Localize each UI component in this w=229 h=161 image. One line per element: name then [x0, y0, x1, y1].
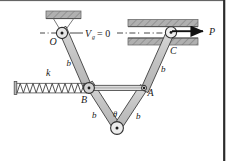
figure-canvas: O A B C P k θ V g = 0 b b b b — [0, 0, 229, 161]
label-joint-A: A — [147, 87, 155, 98]
roller-C — [165, 27, 176, 38]
label-datum-equals-zero: = 0 — [97, 28, 110, 39]
label-force-P: P — [208, 26, 215, 37]
joint-B — [84, 83, 95, 94]
label-angle-theta: θ — [113, 109, 117, 119]
label-roller-C: C — [170, 45, 177, 56]
pivot-bottom — [111, 122, 124, 135]
pivot-O — [56, 27, 67, 38]
joint-A — [141, 85, 146, 90]
mechanism-diagram: O A B C P k θ V g = 0 b b b b — [0, 0, 229, 161]
label-datum-Vg: V g = 0 — [85, 28, 110, 41]
label-pivot-O: O — [50, 36, 57, 47]
label-length-b-OB: b — [67, 58, 72, 68]
label-spring-k: k — [46, 67, 51, 78]
label-length-b-bottom-A: b — [136, 111, 141, 121]
label-length-b-B-bottom: b — [92, 110, 97, 120]
support-block-top — [46, 11, 81, 19]
label-length-b-AC: b — [161, 64, 166, 74]
label-datum-subscript: g — [92, 34, 95, 40]
spring-k — [14, 82, 89, 95]
connecting-rod-BA — [88, 85, 145, 90]
label-joint-B: B — [81, 94, 87, 105]
